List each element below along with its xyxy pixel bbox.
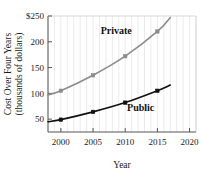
y-tick-label: 150 [31, 63, 45, 73]
y-tick-label: 50 [35, 114, 45, 124]
data-point-marker-public [91, 110, 94, 113]
data-point-marker-public [59, 118, 62, 121]
data-point-marker-private [91, 74, 94, 77]
series-labels-group: PrivatePublic [101, 25, 155, 113]
data-point-marker-public [156, 89, 159, 92]
x-axis-title: Year [113, 160, 131, 170]
y-tick-label: $250 [26, 11, 45, 21]
x-tick-label: 2010 [116, 137, 135, 147]
data-point-marker-private [59, 89, 62, 92]
y-axis-title-line1: Cost Over Four Years [3, 33, 13, 116]
series-label-public: Public [127, 102, 155, 113]
y-tick-label: 200 [31, 37, 45, 47]
x-tick-label: 2020 [181, 137, 200, 147]
series-label-private: Private [101, 25, 133, 36]
data-point-marker-private [124, 55, 127, 58]
y-axis-title-line2: (thousands of dollars) [14, 33, 25, 116]
data-point-marker-private [156, 30, 159, 33]
cost-over-four-years-chart: 50100150200$250 20002005201020152020 Pri… [0, 0, 201, 172]
y-tick-label: 100 [31, 89, 45, 99]
x-tick-label: 2005 [84, 137, 103, 147]
x-tick-label: 2015 [148, 137, 167, 147]
x-tick-label: 2000 [52, 137, 71, 147]
chart-canvas: 50100150200$250 20002005201020152020 Pri… [0, 0, 201, 172]
